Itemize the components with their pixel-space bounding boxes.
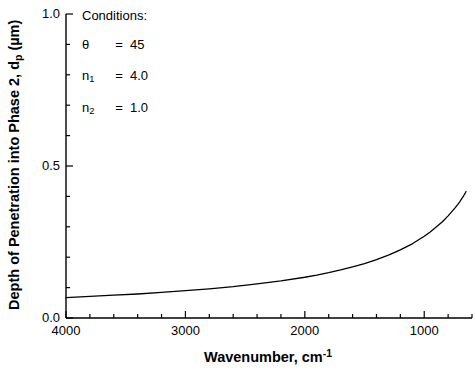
x-axis-title-base: Wavenumber, cm — [204, 349, 323, 365]
y-axis-title-part1: Depth of Penetration into Phase 2, d — [6, 61, 22, 310]
condition-equals-theta: = — [108, 37, 130, 52]
x-axis-ticks — [66, 311, 472, 318]
condition-row-n2: n2 = 1.0 — [82, 100, 148, 116]
condition-subscript-n1: 1 — [89, 75, 94, 85]
y-axis-tick-label: 1.0 — [20, 6, 60, 21]
x-axis-title: Wavenumber, cm-1 — [60, 348, 476, 366]
conditions-title: Conditions: — [82, 8, 148, 23]
condition-value-theta: 45 — [130, 37, 144, 52]
data-series-line — [66, 192, 466, 298]
x-axis-title-exponent: -1 — [323, 348, 332, 359]
condition-symbol-theta: θ — [82, 37, 108, 53]
condition-row-n1: n1 = 4.0 — [82, 68, 148, 84]
condition-equals-n2: = — [108, 100, 130, 115]
y-axis-ticks — [66, 14, 73, 318]
x-axis-tick-label: 2000 — [275, 323, 335, 338]
x-axis-tick-label: 4000 — [36, 323, 96, 338]
conditions-annotation: Conditions: θ = 45 n1 = 4.0 n2 = 1.0 — [82, 8, 148, 131]
y-axis-title-part2: (µm) — [6, 20, 22, 55]
y-axis-tick-label: 0.5 — [20, 158, 60, 173]
x-axis-tick-label: 1000 — [394, 323, 454, 338]
x-axis-tick-label: 3000 — [155, 323, 215, 338]
condition-subscript-n2: 2 — [89, 106, 94, 116]
chart-page: Depth of Penetration into Phase 2, dp (µ… — [0, 0, 476, 380]
condition-row-theta: θ = 45 — [82, 37, 148, 53]
y-axis-title-subscript: p — [13, 55, 24, 61]
condition-equals-n1: = — [108, 68, 130, 83]
condition-value-n2: 1.0 — [130, 100, 148, 115]
condition-symbol-n1: n1 — [82, 68, 108, 84]
condition-value-n1: 4.0 — [130, 68, 148, 83]
condition-symbol-theta-text: θ — [82, 37, 89, 52]
condition-symbol-n2: n2 — [82, 100, 108, 116]
